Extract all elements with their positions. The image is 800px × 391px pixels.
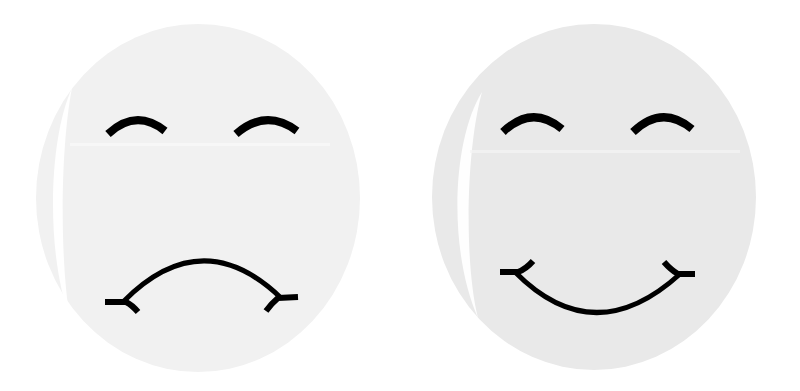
- happy-face-disc: [432, 24, 756, 370]
- sad-face-band: [70, 143, 330, 146]
- emoji-faces-illustration: Sad face Happy face: [0, 0, 800, 391]
- faces-canvas: [0, 0, 800, 391]
- sad-face-disc: [36, 24, 360, 372]
- sad-face-icon: [36, 24, 360, 372]
- happy-face-band: [470, 150, 740, 153]
- happy-face-icon: [432, 24, 756, 370]
